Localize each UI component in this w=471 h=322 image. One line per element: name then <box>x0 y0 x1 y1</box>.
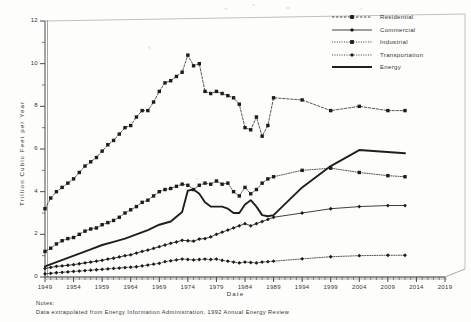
legend-swatch-icon <box>330 25 374 35</box>
legend-item-industrial[interactable]: Industrial <box>330 36 462 49</box>
x-tick-label: 1969 <box>145 284 173 290</box>
series-energy <box>45 150 405 266</box>
scan-artifact <box>196 178 198 180</box>
y-tick-label: 10 <box>12 60 38 66</box>
series-residential <box>43 53 406 210</box>
scan-artifact <box>252 4 255 6</box>
legend-swatch-icon <box>330 12 374 22</box>
x-tick-label: 1974 <box>174 284 202 290</box>
y-tick-label: 2 <box>12 230 38 236</box>
y-tick-label: 8 <box>12 102 38 108</box>
x-tick-label: 2009 <box>374 284 402 290</box>
x-tick-label: 2004 <box>345 284 373 290</box>
legend-label: Energy <box>380 64 401 70</box>
y-tick-label: 12 <box>12 17 38 23</box>
legend-item-transportation[interactable]: Transportation <box>330 49 462 62</box>
x-tick-label: 2019 <box>431 284 459 290</box>
y-tick-label: 6 <box>12 145 38 151</box>
x-tick-label: 1999 <box>317 284 345 290</box>
legend-label: Commercial <box>380 27 416 33</box>
x-tick-label: 1949 <box>31 284 59 290</box>
legend-label: Residential <box>380 14 414 20</box>
chart-legend: ResidentialCommercialIndustrialTransport… <box>330 11 462 74</box>
y-tick-label: 4 <box>12 188 38 194</box>
notes-body: Data extrapolated from Energy Informatio… <box>36 308 289 317</box>
scan-artifact <box>224 8 228 10</box>
chart-figure: Trillion Cubic Feet per Year Date 024681… <box>0 0 471 322</box>
legend-item-commercial[interactable]: Commercial <box>330 24 462 37</box>
x-tick-label: 1959 <box>88 284 116 290</box>
series-industrial <box>43 167 406 254</box>
legend-swatch-icon <box>330 62 374 72</box>
x-axis-label: Date <box>0 290 471 297</box>
series-commercial <box>43 204 407 271</box>
x-tick-label: 2014 <box>402 284 430 290</box>
scan-artifact <box>360 8 363 10</box>
y-tick-label: 0 <box>12 273 38 279</box>
x-tick-label: 1989 <box>260 284 288 290</box>
legend-swatch-icon <box>330 50 374 60</box>
legend-label: Transportation <box>380 52 423 58</box>
legend-label: Industrial <box>380 39 408 45</box>
scan-artifact <box>148 46 151 49</box>
notes-heading: Notes: <box>36 299 289 308</box>
x-tick-label: 1984 <box>231 284 259 290</box>
legend-swatch-icon <box>330 37 374 47</box>
chart-notes: Notes: Data extrapolated from Energy Inf… <box>36 299 289 317</box>
x-tick-label: 1994 <box>288 284 316 290</box>
legend-item-energy[interactable]: Energy <box>330 61 462 74</box>
x-tick-label: 1954 <box>60 284 88 290</box>
x-tick-label: 1964 <box>117 284 145 290</box>
legend-item-residential[interactable]: Residential <box>330 11 462 24</box>
series-transportation <box>43 253 407 275</box>
scan-artifact <box>286 7 290 9</box>
x-tick-label: 1979 <box>202 284 230 290</box>
